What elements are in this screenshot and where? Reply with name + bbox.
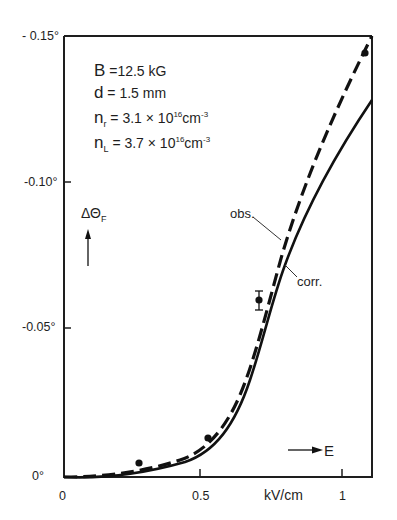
corr-label: corr. — [297, 275, 322, 288]
y-tick-label-0.10: -0.10° — [24, 176, 58, 189]
y-axis-arrow-icon — [85, 229, 91, 266]
param-nr: nr = 3.1 × 1016cm-3 — [94, 109, 208, 129]
x-axis-label-e: E — [324, 443, 334, 458]
corr-leader-line — [285, 265, 297, 277]
x-tick-label-0.5: 0.5 — [192, 490, 209, 503]
y-tick-label-0: 0° — [32, 470, 44, 483]
obs-curve — [64, 36, 372, 477]
obs-leader-line — [253, 217, 281, 240]
y-tick-marks — [64, 182, 71, 328]
y-tick-label-0.05: -0.05° — [22, 321, 56, 334]
y-tick-label-0.15: - 0.15° — [22, 30, 59, 43]
param-nl: nL = 3.7 × 1016cm-3 — [94, 134, 210, 154]
param-b: B =12.5 kG — [94, 62, 166, 79]
chart-plot-area — [0, 0, 397, 520]
param-d: d = 1.5 mm — [94, 84, 166, 101]
corr-curve — [64, 100, 372, 477]
x-tick-marks — [200, 469, 342, 477]
x-axis-unit-label: kV/cm — [264, 488, 303, 502]
obs-label: obs. — [230, 207, 255, 220]
x-tick-label-1: 1 — [339, 490, 346, 503]
x-axis-arrow-icon — [288, 447, 323, 454]
x-tick-label-0: 0 — [59, 490, 66, 503]
y-axis-label: ΔΘF — [81, 206, 106, 224]
axes-frame — [63, 36, 373, 478]
